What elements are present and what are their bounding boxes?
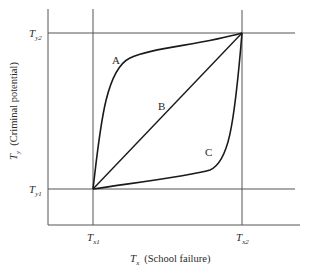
threshold-diagram: A B C Ty2 Ty1 Tx1 Tx2 Tx(School failure)… — [0, 0, 311, 270]
x-axis-title: Tx(School failure) — [130, 252, 211, 267]
ty2-label: Ty2 — [29, 27, 42, 42]
y-axis-title: Ty(Criminal potential) — [7, 62, 22, 160]
ty1-label: Ty1 — [29, 183, 42, 198]
curve-a-label: A — [112, 54, 120, 66]
curve-c-label: C — [205, 146, 212, 158]
tx1-label: Tx1 — [87, 231, 100, 246]
curve-b-label: B — [158, 100, 165, 112]
tx2-label: Tx2 — [236, 231, 249, 246]
